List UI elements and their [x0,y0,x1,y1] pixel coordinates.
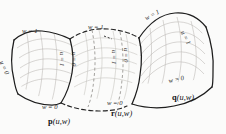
label-p-w-equals-0: w = 0 [42,104,57,111]
caption-patch-q: q(u,w) [172,94,194,102]
surface-patch-figure: w = 1 u = 0 w = 0 u = 1 w = 1 u = 0 u = … [0,0,226,134]
caption-patch-p: p(u,w) [48,118,70,126]
caption-q-args: (u,w) [177,93,194,102]
label-r-u-equals-0: u = 0 [70,52,77,66]
label-p-w-equals-1: w = 1 [22,28,37,35]
caption-r-args: (u,w) [115,109,132,118]
label-r-w-equals-0: w = 0 [107,100,122,107]
caption-patch-r: r(u,w) [111,110,132,118]
caption-p-args: (u,w) [53,117,70,126]
label-p-u-equals-1: u = 1 [58,52,65,66]
label-q-u-equals-0: u = 0 [122,48,129,62]
label-r-u-equals-1: u = 1 [110,50,117,64]
label-r-w-equals-1: w = 1 [88,24,103,31]
